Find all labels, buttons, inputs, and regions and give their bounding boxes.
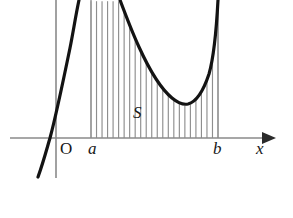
shaded-area-label-s: S: [133, 104, 142, 121]
x-axis-arrowhead: [262, 132, 276, 144]
lower-limit-label-a: a: [88, 140, 97, 157]
upper-limit-label-b: b: [213, 140, 222, 157]
figure-svg: [0, 0, 293, 218]
hatching-group: [91, 1, 218, 138]
x-axis-label: x: [256, 140, 264, 157]
figure-container: O a b x S: [0, 0, 293, 218]
origin-label: O: [60, 140, 72, 157]
